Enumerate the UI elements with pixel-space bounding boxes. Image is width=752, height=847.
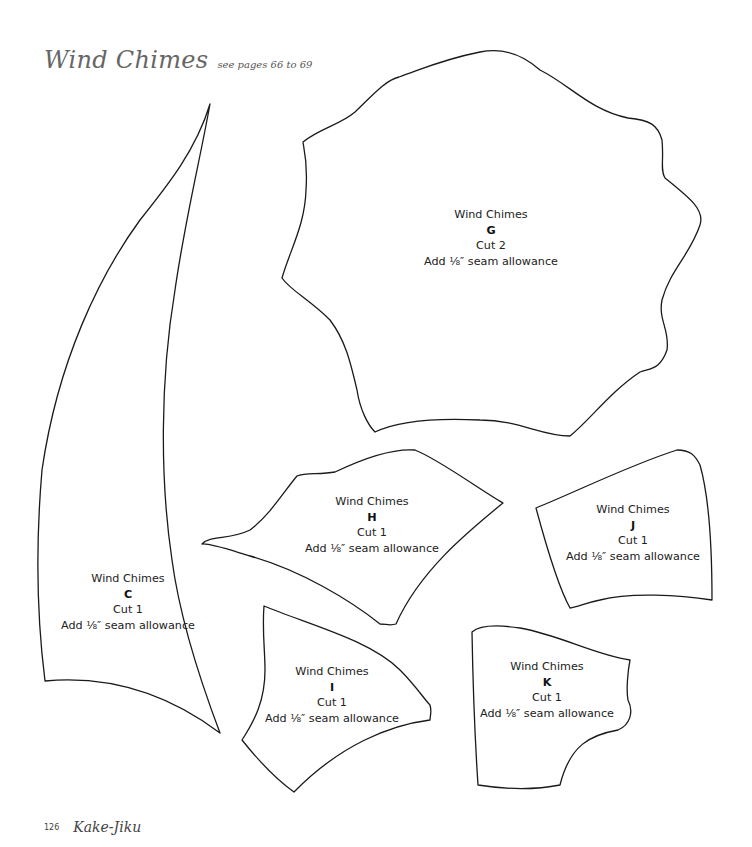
- piece-name: Wind Chimes: [265, 664, 399, 680]
- piece-seam-allowance: Add ⅛″ seam allowance: [566, 549, 700, 565]
- piece-cut-count: Cut 1: [265, 695, 399, 711]
- page-number: 126: [44, 823, 59, 832]
- piece-cut-count: Cut 1: [305, 525, 439, 541]
- piece-name: Wind Chimes: [305, 494, 439, 510]
- piece-letter: C: [61, 587, 195, 603]
- piece-letter: I: [265, 680, 399, 696]
- pattern-label-i: Wind Chimes I Cut 1 Add ⅛″ seam allowanc…: [265, 664, 399, 726]
- piece-letter: G: [424, 223, 558, 239]
- book-title: Kake-Jiku: [73, 819, 141, 835]
- piece-seam-allowance: Add ⅛″ seam allowance: [305, 541, 439, 557]
- piece-name: Wind Chimes: [61, 571, 195, 587]
- pattern-label-j: Wind Chimes J Cut 1 Add ⅛″ seam allowanc…: [566, 502, 700, 564]
- piece-name: Wind Chimes: [566, 502, 700, 518]
- piece-letter: K: [480, 675, 614, 691]
- piece-seam-allowance: Add ⅛″ seam allowance: [61, 618, 195, 634]
- piece-name: Wind Chimes: [424, 207, 558, 223]
- piece-seam-allowance: Add ⅛″ seam allowance: [265, 711, 399, 727]
- piece-cut-count: Cut 2: [424, 238, 558, 254]
- piece-cut-count: Cut 1: [566, 533, 700, 549]
- pattern-label-c: Wind Chimes C Cut 1 Add ⅛″ seam allowanc…: [61, 571, 195, 633]
- piece-seam-allowance: Add ⅛″ seam allowance: [480, 706, 614, 722]
- piece-letter: H: [305, 510, 439, 526]
- pattern-page: Wind Chimes see pages 66 to 69 Wind Chim…: [0, 0, 752, 847]
- pattern-piece-c-outline: [38, 104, 220, 733]
- piece-cut-count: Cut 1: [61, 602, 195, 618]
- pattern-label-k: Wind Chimes K Cut 1 Add ⅛″ seam allowanc…: [480, 659, 614, 721]
- page-footer: 126 Kake-Jiku: [44, 817, 141, 835]
- pattern-label-g: Wind Chimes G Cut 2 Add ⅛″ seam allowanc…: [424, 207, 558, 269]
- piece-cut-count: Cut 1: [480, 690, 614, 706]
- piece-letter: J: [566, 518, 700, 534]
- piece-seam-allowance: Add ⅛″ seam allowance: [424, 254, 558, 270]
- pattern-label-h: Wind Chimes H Cut 1 Add ⅛″ seam allowanc…: [305, 494, 439, 556]
- piece-name: Wind Chimes: [480, 659, 614, 675]
